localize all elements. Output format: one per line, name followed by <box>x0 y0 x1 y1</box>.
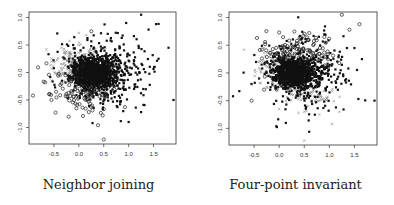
x-tick-label: 1.0 <box>325 152 334 158</box>
panel-four-point-invariant: -0.50.00.51.01.51.00.50.0-0.5-1.0 Four-p… <box>197 0 394 205</box>
y-tick-label: 0.5 <box>17 40 23 49</box>
y-tick-label: 1.0 <box>17 13 23 22</box>
y-tick-label: -1.0 <box>17 122 23 133</box>
x-tick-label: 1.0 <box>124 151 133 157</box>
caption-neighbor-joining: Neighbor joining <box>0 177 197 192</box>
caption-four-point-invariant: Four-point invariant <box>197 177 394 192</box>
y-tick-label: 0.0 <box>17 68 23 77</box>
x-tick-label: 0.0 <box>275 152 284 158</box>
y-tick-label: 0.5 <box>217 40 223 49</box>
y-tick-label: -0.5 <box>217 95 223 106</box>
scatter-points <box>232 13 376 142</box>
x-tick-label: -0.5 <box>49 151 60 157</box>
panel-neighbor-joining: -0.50.00.51.01.51.00.50.0-0.5-1.0 Neighb… <box>0 0 197 205</box>
x-tick-label: 1.5 <box>149 151 158 157</box>
y-tick-label: -0.5 <box>17 94 23 105</box>
x-tick-label: -0.5 <box>249 152 260 158</box>
scatter-plot-four-point-invariant: -0.50.00.51.01.51.00.50.0-0.5-1.0 <box>197 0 394 170</box>
x-tick-label: 1.5 <box>350 152 359 158</box>
y-tick-label: 0.0 <box>217 68 223 77</box>
x-tick-label: 0.5 <box>100 151 109 157</box>
x-tick-label: 0.5 <box>300 152 309 158</box>
y-tick-label: -1.0 <box>217 123 223 134</box>
scatter-points <box>31 14 174 142</box>
x-tick-label: 0.0 <box>75 151 84 157</box>
scatter-plot-neighbor-joining: -0.50.00.51.01.51.00.50.0-0.5-1.0 <box>0 0 197 170</box>
y-tick-label: 1.0 <box>217 13 223 22</box>
